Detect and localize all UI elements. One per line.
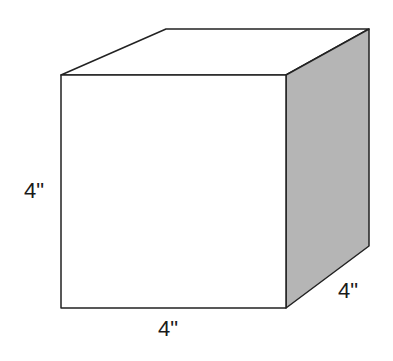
cube-diagram: 4" 4" 4"	[0, 0, 393, 361]
depth-label: 4"	[338, 280, 358, 302]
height-label: 4"	[24, 180, 44, 202]
cube-drawing	[0, 0, 393, 361]
cube-side-face	[286, 29, 369, 308]
cube-front-face	[61, 75, 286, 308]
width-label: 4"	[158, 318, 178, 340]
